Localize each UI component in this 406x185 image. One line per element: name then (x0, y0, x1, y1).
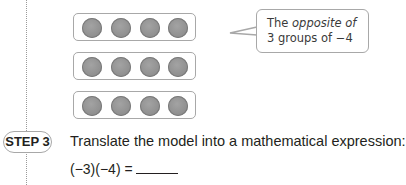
callout-line-2: 3 groups of −4 (267, 31, 368, 46)
counter-chip (82, 18, 102, 38)
callout-line-1: The opposite of (267, 16, 368, 31)
counter-chip (140, 18, 160, 38)
counter-chip (168, 57, 188, 77)
counter-chip (111, 18, 131, 38)
counter-tray (73, 91, 196, 119)
callout-tail (228, 24, 258, 38)
counter-tray (73, 52, 196, 80)
callout-text-plain: The (267, 16, 292, 30)
expression-text: (−3)(−4) = (70, 161, 133, 177)
counter-tray (73, 13, 196, 41)
counter-chip (111, 96, 131, 116)
callout-text-italic: opposite of (292, 16, 356, 30)
step-instruction: Translate the model into a mathematical … (70, 133, 406, 149)
counter-chip (168, 96, 188, 116)
math-expression: (−3)(−4) = (70, 160, 178, 177)
counter-chip (140, 96, 160, 116)
counter-chip (111, 57, 131, 77)
speech-bubble-callout: The opposite of 3 groups of −4 (256, 9, 369, 53)
counter-chip (140, 57, 160, 77)
counter-chip (168, 18, 188, 38)
counter-chip (82, 96, 102, 116)
step-badge: STEP 3 (3, 131, 52, 153)
counter-chip (82, 57, 102, 77)
margin-guide-line (26, 0, 27, 185)
answer-blank[interactable] (136, 160, 178, 174)
